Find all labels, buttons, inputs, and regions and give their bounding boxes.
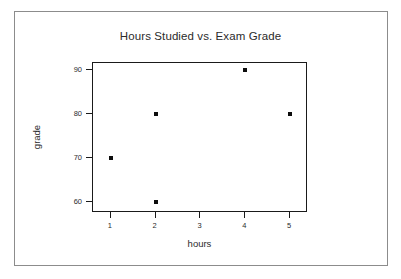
x-axis-title: hours	[92, 238, 307, 249]
y-tick-label: 90	[74, 64, 82, 73]
x-tick-label: 5	[287, 221, 291, 230]
y-tick-label: 80	[74, 108, 82, 117]
x-tick-mark	[110, 212, 111, 218]
y-tick-mark	[86, 69, 92, 70]
x-tick-mark	[155, 212, 156, 218]
data-point	[109, 156, 113, 160]
data-point	[243, 68, 247, 72]
data-point	[288, 112, 292, 116]
data-point	[154, 112, 158, 116]
y-tick-mark	[86, 113, 92, 114]
scatter-plot-figure: Hours Studied vs. Exam Grade 60708090 12…	[0, 0, 401, 279]
x-tick-label: 2	[153, 221, 157, 230]
y-axis-title: grade	[31, 125, 42, 149]
y-tick-label: 70	[74, 152, 82, 161]
x-tick-label: 3	[197, 221, 201, 230]
x-tick-label: 1	[108, 221, 112, 230]
x-tick-mark	[244, 212, 245, 218]
data-point	[154, 200, 158, 204]
x-tick-label: 4	[242, 221, 246, 230]
y-tick-label: 60	[74, 196, 82, 205]
y-tick-mark	[86, 201, 92, 202]
data-points-layer	[93, 63, 306, 211]
plot-area	[92, 62, 307, 212]
x-tick-mark	[289, 212, 290, 218]
x-tick-mark	[199, 212, 200, 218]
chart-title: Hours Studied vs. Exam Grade	[0, 30, 401, 42]
y-tick-mark	[86, 157, 92, 158]
